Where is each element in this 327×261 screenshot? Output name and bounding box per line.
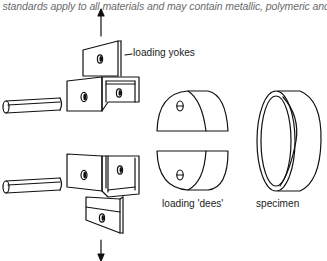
lower-yoke <box>3 154 139 233</box>
upper-pin <box>3 98 62 113</box>
lower-dee <box>157 151 228 190</box>
split-disk-test-diagram <box>0 0 327 261</box>
ring-specimen <box>257 91 321 191</box>
upper-yoke <box>3 41 139 113</box>
label-loading-yokes: loading yokes <box>133 46 195 58</box>
yokes-leader-line <box>125 54 132 55</box>
upper-dee <box>157 91 228 131</box>
label-loading-dees: loading 'dees' <box>162 197 223 209</box>
load-down-arrow-icon <box>98 240 104 261</box>
load-up-arrow-icon <box>98 9 104 36</box>
label-specimen: specimen <box>256 197 299 209</box>
lower-pin <box>3 178 62 193</box>
